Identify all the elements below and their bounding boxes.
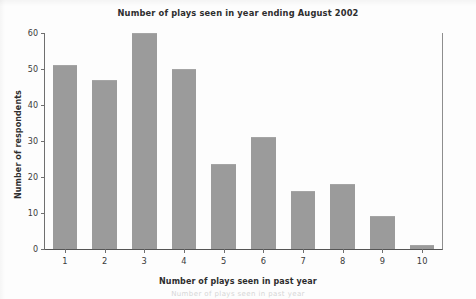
x-tick-1 xyxy=(65,249,66,253)
x-tick-label-1: 1 xyxy=(62,256,67,266)
x-tick-label-10: 10 xyxy=(417,256,428,266)
y-tick-0 xyxy=(41,249,45,250)
y-tick-50 xyxy=(41,69,45,70)
y-tick-label-60: 60 xyxy=(28,29,38,38)
x-tick-label-3: 3 xyxy=(142,256,147,266)
x-tick-label-4: 4 xyxy=(181,256,186,266)
bar-10 xyxy=(410,245,435,249)
x-tick-8 xyxy=(343,249,344,253)
x-tick-5 xyxy=(224,249,225,253)
bar-8 xyxy=(330,184,355,249)
y-tick-10 xyxy=(41,213,45,214)
x-tick-label-8: 8 xyxy=(340,256,345,266)
x-tick-4 xyxy=(184,249,185,253)
x-tick-7 xyxy=(303,249,304,253)
y-tick-label-50: 50 xyxy=(28,65,38,74)
y-tick-label-10: 10 xyxy=(28,209,38,218)
chart-title: Number of plays seen in year ending Augu… xyxy=(0,8,476,18)
bar-4 xyxy=(172,69,197,249)
x-tick-9 xyxy=(382,249,383,253)
y-axis-label: Number of respondents xyxy=(14,65,23,225)
bar-2 xyxy=(92,80,117,249)
y-tick-60 xyxy=(41,33,45,34)
y-tick-label-30: 30 xyxy=(28,137,38,146)
x-tick-2 xyxy=(105,249,106,253)
x-tick-10 xyxy=(422,249,423,253)
y-tick-label-20: 20 xyxy=(28,173,38,182)
bar-1 xyxy=(53,65,78,249)
page-bottom-partial-text: Number of plays seen in past year xyxy=(0,290,476,298)
x-tick-label-6: 6 xyxy=(261,256,266,266)
bar-5 xyxy=(211,164,236,249)
chart-page: Number of plays seen in year ending Augu… xyxy=(0,0,476,299)
y-tick-label-40: 40 xyxy=(28,101,38,110)
y-tick-40 xyxy=(41,105,45,106)
y-tick-20 xyxy=(41,177,45,178)
x-tick-label-7: 7 xyxy=(300,256,305,266)
x-tick-3 xyxy=(144,249,145,253)
bar-6 xyxy=(251,137,276,249)
x-tick-label-2: 2 xyxy=(102,256,107,266)
plot-area: 0102030405060 12345678910 xyxy=(44,33,443,250)
x-tick-6 xyxy=(263,249,264,253)
bar-7 xyxy=(291,191,316,249)
x-axis-label: Number of plays seen in past year xyxy=(0,277,476,286)
y-tick-30 xyxy=(41,141,45,142)
x-tick-label-9: 9 xyxy=(380,256,385,266)
y-tick-label-0: 0 xyxy=(33,245,38,254)
bar-3 xyxy=(132,33,157,249)
x-tick-label-5: 5 xyxy=(221,256,226,266)
bar-9 xyxy=(370,216,395,249)
